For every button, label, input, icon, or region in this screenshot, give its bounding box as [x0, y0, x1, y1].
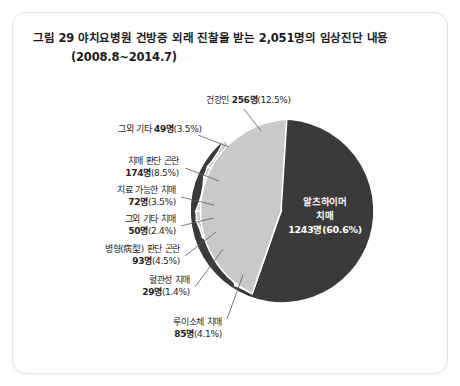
label-alzheimer-line1: 알츠하이머: [303, 196, 347, 207]
label-lewy-body-percent: (4.1%): [194, 329, 222, 339]
label-dementia-undetermined-percent: (8.5%): [151, 168, 179, 178]
label-alzheimer-line3: 1243명(60.6%): [288, 224, 361, 235]
label-other-percent: (3.5%): [174, 124, 202, 134]
label-vascular-percent: (1.4%): [162, 287, 190, 297]
label-treatable-dementia-percent: (3.5%): [148, 197, 176, 207]
label-healthy-percent: (12.5%): [257, 95, 291, 105]
label-vascular-count: 29명: [142, 286, 162, 297]
label-other-dementia-line1: 그외 기타 치매: [125, 213, 177, 224]
label-subtype-undetermined-line2: 93명(4.5%): [132, 255, 180, 266]
label-healthy-count: 256명: [232, 94, 258, 105]
label-other-dementia-percent: (2.4%): [148, 226, 176, 236]
label-treatable-dementia-line1: 치료 가능한 치매: [117, 184, 176, 195]
label-treatable-dementia-count: 72명: [128, 196, 148, 207]
pie-chart: 건강인 256명(12.5%) 그외 기타 49명(3.5%) 치매 판단 곤란…: [13, 13, 449, 375]
label-lewy-body-line1: 루이소체 치매: [173, 316, 222, 327]
label-lewy-body-count: 85명: [174, 328, 194, 339]
figure-card: 그림 29 야치요병원 건방증 외래 진찰을 받는 2,051명의 임상진단 내…: [12, 12, 448, 374]
label-subtype-undetermined-count: 93명: [132, 255, 152, 266]
label-treatable-dementia-line2: 72명(3.5%): [128, 196, 176, 207]
label-subtype-undetermined-percent: (4.5%): [152, 256, 180, 266]
label-lewy-body-line2: 85명(4.1%): [174, 328, 222, 339]
label-dementia-undetermined-line2: 174명(8.5%): [125, 167, 179, 178]
label-other-prefix: 그외 기타: [118, 123, 154, 134]
label-dementia-undetermined-line1: 치매 판단 곤란: [128, 155, 180, 166]
label-alzheimer-line2: 치매: [316, 210, 333, 221]
label-other-dementia-line2: 50명(2.4%): [128, 225, 176, 236]
label-healthy: 건강인 256명(12.5%): [206, 94, 291, 105]
label-vascular-line2: 29명(1.4%): [142, 286, 190, 297]
label-other-dementia-count: 50명: [128, 225, 148, 236]
label-vascular-line1: 혈관성 치매: [149, 274, 190, 285]
label-healthy-prefix: 건강인: [206, 95, 232, 105]
label-other-count: 49명: [154, 123, 174, 134]
label-subtype-undetermined-line1: 병형(病型) 판단 곤란: [105, 243, 180, 254]
pie-slices: [190, 119, 374, 303]
label-other: 그외 기타 49명(3.5%): [118, 123, 202, 134]
label-dementia-undetermined-count: 174명: [125, 167, 151, 178]
